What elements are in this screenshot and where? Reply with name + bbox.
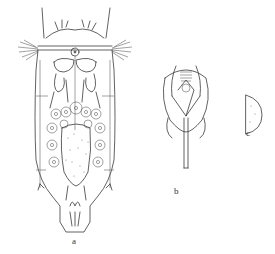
panel-a-drawing — [18, 8, 132, 232]
panel-label-a: a — [72, 236, 76, 246]
rotifer-figure: a b c — [0, 0, 275, 254]
illustration — [0, 0, 275, 254]
panel-b-drawing — [163, 66, 208, 168]
panel-label-b: b — [174, 186, 179, 196]
panel-label-c: c — [246, 128, 250, 138]
